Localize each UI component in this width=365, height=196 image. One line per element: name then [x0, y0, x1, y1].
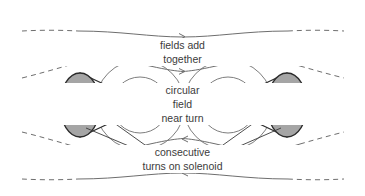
circular-field-near-turn-label: circular field near turn — [0, 83, 365, 125]
solenoid-field-diagram: fields add together circular field near … — [0, 0, 365, 196]
bottom-outer-field-line-dash-right — [288, 179, 344, 180]
circular-field-line-3: near turn — [0, 111, 365, 125]
top-outer-field-line-dash-left — [22, 30, 78, 31]
fields-add-together-label: fields add together — [0, 38, 365, 66]
fields-add-line-1: fields add — [0, 38, 365, 52]
circular-field-line-1: circular — [0, 83, 365, 97]
consecutive-turns-label: consecutive turns on solenoid — [0, 145, 365, 173]
fields-add-line-2: together — [0, 52, 365, 66]
top-inner-field-line-dash-left — [22, 66, 66, 78]
consecutive-turns-line-2: turns on solenoid — [0, 159, 365, 173]
consecutive-turns-line-1: consecutive — [0, 145, 365, 159]
bottom-outer-field-line-dash-left — [22, 179, 78, 180]
circular-field-line-2: field — [0, 97, 365, 111]
bottom-inner-field-line-dash-left — [22, 132, 66, 144]
bottom-inner-field-line-dash-right — [300, 132, 344, 144]
top-outer-field-line-dash-right — [288, 30, 344, 31]
top-inner-field-line-dash-right — [300, 66, 344, 78]
